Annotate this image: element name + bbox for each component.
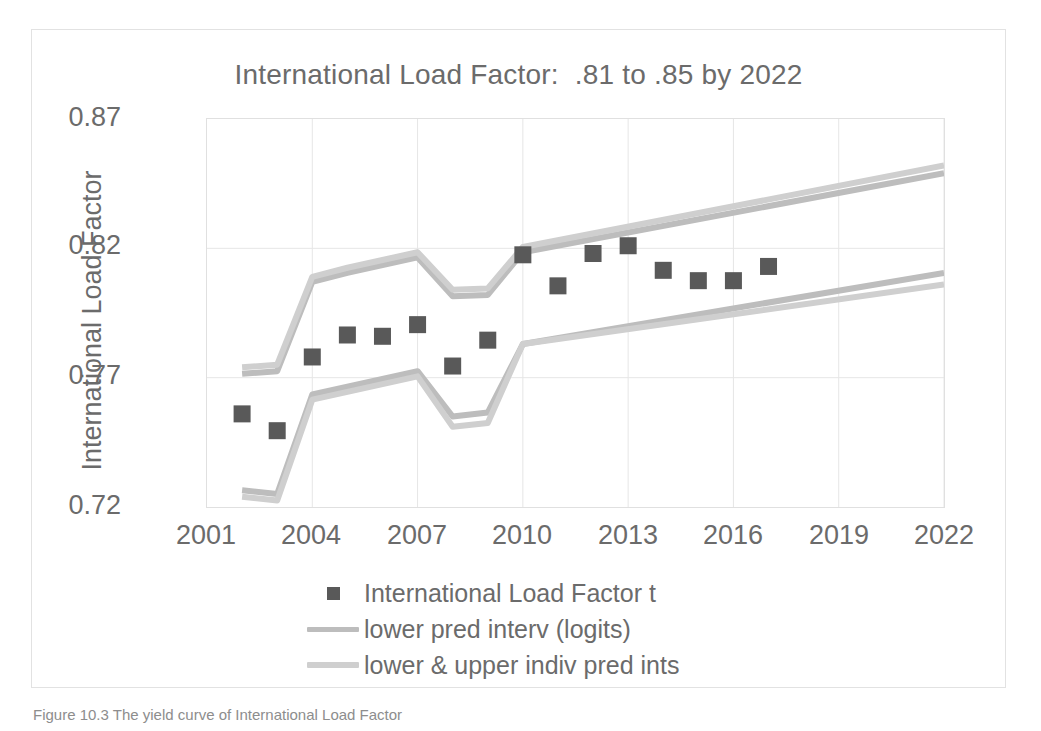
- legend-marker-square-icon: [302, 587, 364, 600]
- data-point-marker: [760, 258, 777, 275]
- y-tick-label-0.77: 0.77: [41, 362, 121, 389]
- data-point-marker: [339, 326, 356, 343]
- data-point-marker: [304, 348, 321, 365]
- x-tick-label-2001: 2001: [151, 522, 261, 549]
- legend-label-observed: International Load Factor t: [364, 581, 656, 606]
- x-tick-label-2007: 2007: [362, 522, 472, 549]
- x-tick-label-2013: 2013: [573, 522, 683, 549]
- y-tick-label-0.72: 0.72: [41, 492, 121, 519]
- figure-caption: Figure 10.3 The yield curve of Internati…: [33, 706, 402, 723]
- data-point-marker: [234, 405, 251, 422]
- data-point-marker: [479, 332, 496, 349]
- legend-label-indiv: lower & upper indiv pred ints: [364, 653, 679, 678]
- data-point-marker: [374, 328, 391, 345]
- data-point-marker: [409, 316, 426, 333]
- data-point-marker: [655, 262, 672, 279]
- legend-label-logits: lower pred interv (logits): [364, 617, 631, 642]
- legend-item-indiv[interactable]: lower & upper indiv pred ints: [32, 647, 1005, 683]
- legend-item-logits[interactable]: lower pred interv (logits): [32, 611, 1005, 647]
- data-point-marker: [549, 277, 566, 294]
- plot-area: [206, 118, 945, 508]
- legend-line-logits-icon: [302, 627, 364, 632]
- chart-legend: International Load Factor t lower pred i…: [32, 575, 1005, 683]
- legend-line-indiv-icon: [302, 662, 364, 668]
- y-axis-title: International Load Factor: [77, 156, 108, 486]
- x-tick-label-2019: 2019: [784, 522, 894, 549]
- data-point-marker: [725, 272, 742, 289]
- plot-svg: [207, 119, 944, 507]
- x-tick-label-2004: 2004: [256, 522, 366, 549]
- data-point-marker: [620, 237, 637, 254]
- chart-title: International Load Factor: .81 to .85 by…: [32, 59, 1005, 91]
- y-tick-label-0.82: 0.82: [41, 232, 121, 259]
- data-point-marker: [269, 422, 286, 439]
- x-tick-label-2022: 2022: [889, 522, 999, 549]
- data-point-marker: [690, 272, 707, 289]
- data-point-marker: [514, 246, 531, 263]
- data-point-marker: [444, 358, 461, 375]
- x-tick-label-2010: 2010: [467, 522, 577, 549]
- x-tick-label-2016: 2016: [678, 522, 788, 549]
- chart-frame: International Load Factor: .81 to .85 by…: [31, 29, 1006, 688]
- y-tick-label-0.87: 0.87: [41, 104, 121, 131]
- legend-item-observed[interactable]: International Load Factor t: [32, 575, 1005, 611]
- data-point-marker: [585, 245, 602, 262]
